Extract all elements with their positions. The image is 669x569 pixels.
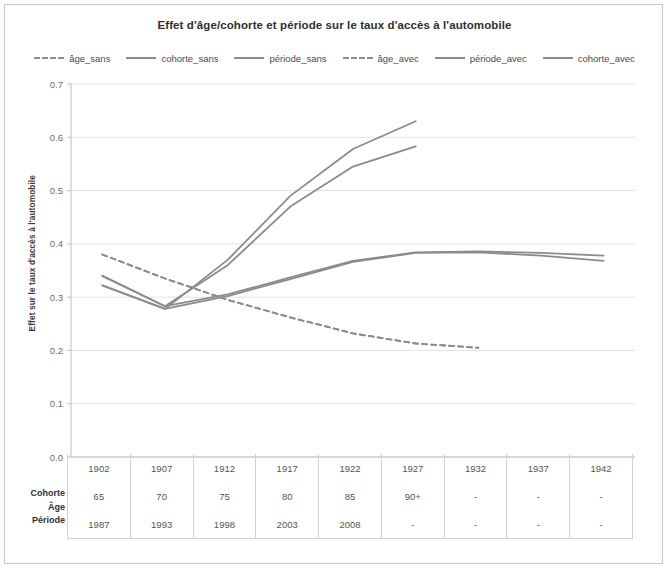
series-line-cohorte_sans <box>102 146 415 306</box>
table-cell: 2008 <box>319 510 382 539</box>
svg-text:0.7: 0.7 <box>50 79 63 90</box>
table-cell: 1942 <box>570 454 633 482</box>
svg-text:0.2: 0.2 <box>50 345 63 356</box>
svg-text:0.4: 0.4 <box>50 238 63 249</box>
table-cell: 1917 <box>256 454 319 482</box>
table-row-labels: Cohorte Âge Période <box>5 487 65 528</box>
svg-text:0.0: 0.0 <box>50 452 63 463</box>
cohorte-age-periode-table: 1902190719121917192219271932193719426570… <box>67 454 633 539</box>
table-cell: 1922 <box>319 454 382 482</box>
svg-text:0.1: 0.1 <box>50 398 63 409</box>
table-cell: - <box>444 482 507 510</box>
series-line-période_sans <box>102 121 415 309</box>
table-cell: 70 <box>130 482 193 510</box>
table-body: 1902190719121917192219271932193719426570… <box>68 454 633 539</box>
table-cell: 1902 <box>68 454 131 482</box>
table-cell: 1998 <box>193 510 256 539</box>
svg-text:0.5: 0.5 <box>50 185 63 196</box>
table-cell: 1907 <box>130 454 193 482</box>
gridlines <box>67 84 635 457</box>
table-cell: - <box>570 510 633 539</box>
y-tick-labels: 0.00.10.20.30.40.50.60.7 <box>50 79 63 463</box>
table-row: 657075808590+--- <box>68 482 633 510</box>
table-cell: 65 <box>68 482 131 510</box>
table-cell: 2003 <box>256 510 319 539</box>
table-row: 19871993199820032008---- <box>68 510 633 539</box>
table-cell: - <box>507 482 570 510</box>
table-cell: - <box>444 510 507 539</box>
table-row-label-periode: Période <box>5 514 65 528</box>
table-cell: 75 <box>193 482 256 510</box>
table-cell: - <box>507 510 570 539</box>
series-line-âge_avec <box>102 255 478 348</box>
data-table: 1902190719121917192219271932193719426570… <box>67 454 633 532</box>
svg-text:0.6: 0.6 <box>50 132 63 143</box>
table-cell: 1993 <box>130 510 193 539</box>
series-line-âge_sans <box>102 255 478 348</box>
table-cell: 1937 <box>507 454 570 482</box>
table-cell: 90+ <box>381 482 444 510</box>
chart-frame: Effet d'âge/cohorte et période sur le ta… <box>4 4 663 564</box>
table-cell: - <box>570 482 633 510</box>
table-cell: 1927 <box>381 454 444 482</box>
table-cell: 80 <box>256 482 319 510</box>
axis-lines <box>71 84 635 457</box>
table-cell: 85 <box>319 482 382 510</box>
table-row-label-age: Âge <box>5 501 65 515</box>
svg-text:0.3: 0.3 <box>50 292 63 303</box>
table-cell: 1987 <box>68 510 131 539</box>
table-cell: - <box>381 510 444 539</box>
table-cell: 1912 <box>193 454 256 482</box>
table-row: 190219071912191719221927193219371942 <box>68 454 633 482</box>
table-row-label-cohorte: Cohorte <box>5 487 65 501</box>
table-cell: 1932 <box>444 454 507 482</box>
series-lines <box>102 121 603 347</box>
